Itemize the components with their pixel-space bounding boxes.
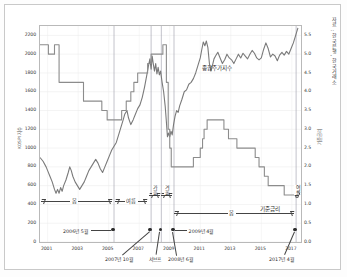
y2-axis-tick-label: 0.0 [304,239,324,244]
chart-frame: 종합주가지수기준금리 02004006008001000120014001600… [4,4,341,270]
y-axis-title: KOSPI 지수 [16,127,22,149]
y2-axis-tick-label: 4.5 [304,70,324,75]
y-axis-tick-label: 2200 [14,32,36,37]
y-axis-tick-label: 200 [14,220,36,225]
y2-axis-tick-label: 5.5 [304,32,324,37]
annotation-2006-05: 2006년 5월 [63,227,88,234]
x-axis-tick-label: 2011 [187,246,211,251]
x-axis-tick-label: 2013 [218,246,242,251]
series-line-기준금리 [40,45,299,195]
series-label: 기준금리 [260,205,280,213]
x-axis-tick-label: 2015 [248,246,272,251]
y2-axis-tick-label: 1.5 [304,182,324,187]
leader-2009-04 [175,230,187,231]
y2-axis-tick-label: 1.0 [304,201,324,206]
annotation-subprime: 서브프 [149,255,161,262]
chart-page: 종합주가지수기준금리 02004006008001000120014001600… [0,0,347,277]
x-axis-tick-label: 2003 [65,246,89,251]
series-label: 종합주가지수 [202,64,232,72]
y2-axis-tick-label: 4.0 [304,88,324,93]
season-label: 여름 [294,185,299,195]
plot-area: 종합주가지수기준금리 [39,25,302,243]
y2-axis-tick-label: 2.0 [304,163,324,168]
season-label: 가을 [152,185,157,195]
source-credit: 자료 : 한국은행, 한국거래소 [330,17,337,85]
y2-axis-tick-label: 2.5 [304,145,324,150]
season-label: 봄 [228,209,236,216]
x-axis-tick-label: 2009 [157,246,181,251]
y-axis-tick-label: 800 [14,163,36,168]
y-axis-tick-label: 400 [14,201,36,206]
season-label: 봄 [70,197,78,204]
y2-axis-tick-label: 5.0 [304,51,324,56]
season-label: 여름 [125,197,138,204]
chart-canvas: 종합주가지수기준금리 [40,26,301,242]
y-axis-tick-label: 600 [14,182,36,187]
season-label: 겨울 [164,185,169,195]
y-axis-tick-label: 0 [14,239,36,244]
y-axis-tick-label: 1800 [14,70,36,75]
y2-axis-title: 기준금리 [316,129,322,145]
y-axis-tick-label: 1400 [14,107,36,112]
x-axis-tick-label: 2001 [35,246,59,251]
x-axis-tick-label: 2005 [96,246,120,251]
annotation-2008-06: 2008년 6월 [168,255,193,262]
y2-axis-tick-label: 3.5 [304,107,324,112]
x-axis-tick-label: 2017 [279,246,303,251]
y-axis-tick-label: 2000 [14,51,36,56]
annotation-2009-04: 2009년 4월 [189,227,214,234]
y2-axis-tick-label: 0.5 [304,220,324,225]
leader-2006-05 [91,230,111,231]
y-axis-tick-label: 1600 [14,88,36,93]
annotation-2017-04: 2017년 4월 [269,255,294,262]
annotation-2007-10: 2007년 10월 [105,255,133,262]
